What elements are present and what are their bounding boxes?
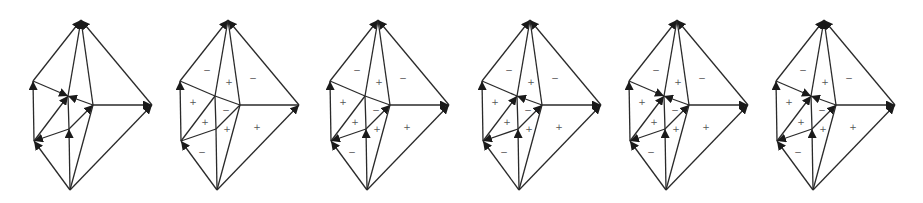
edge-C-F xyxy=(331,96,365,141)
minus-sign-label: − xyxy=(353,65,361,75)
edge-C-A xyxy=(68,20,81,96)
plus-sign-label: + xyxy=(403,122,411,132)
edge-F-B xyxy=(330,81,331,141)
edge-C-G xyxy=(215,96,216,129)
diagram-5: −+−+−+++− xyxy=(629,20,748,190)
edge-H-G xyxy=(69,129,70,190)
plus-sign-label: + xyxy=(223,124,231,134)
plus-sign-label: + xyxy=(555,122,563,132)
plus-sign-label: + xyxy=(638,97,646,107)
minus-sign-label: − xyxy=(551,73,559,83)
figure-stage: −+−+−+++−−+−+−+++−−+−+−+++−−+−+−+++−−+−+… xyxy=(0,0,923,203)
minus-sign-label: − xyxy=(203,65,211,75)
edge-B-A xyxy=(33,20,81,81)
edge-F-B xyxy=(776,81,777,141)
edge-C-G xyxy=(365,96,366,129)
edge-C-G xyxy=(811,96,812,129)
plus-sign-label: + xyxy=(189,97,197,107)
edge-H-E xyxy=(519,105,601,190)
minus-sign-label: − xyxy=(845,73,853,83)
minus-sign-label: − xyxy=(698,73,706,83)
minus-sign-label: − xyxy=(818,105,826,115)
graph-diagrams: −+−+−+++−−+−+−+++−−+−+−+++−−+−+−+++−−+−+… xyxy=(0,0,923,203)
edge-C-G xyxy=(68,96,69,129)
edge-F-C xyxy=(34,96,68,141)
plus-sign-label: + xyxy=(821,77,829,87)
plus-sign-label: + xyxy=(491,97,499,107)
edge-H-E xyxy=(813,105,895,190)
edge-H-E xyxy=(70,105,152,190)
minus-sign-label: − xyxy=(249,73,257,83)
edge-H-G xyxy=(665,129,666,190)
plus-sign-label: + xyxy=(373,124,381,134)
edge-C-G xyxy=(517,96,518,129)
edge-H-F xyxy=(34,141,70,190)
plus-sign-label: + xyxy=(797,117,805,127)
minus-sign-label: − xyxy=(652,65,660,75)
diagram-2: −+−+−+++− xyxy=(180,20,299,190)
diagram-1 xyxy=(33,20,152,190)
edge-F-B xyxy=(180,81,181,141)
edge-F-C xyxy=(630,96,664,141)
minus-sign-label: − xyxy=(524,105,532,115)
plus-sign-label: + xyxy=(785,97,793,107)
plus-sign-label: + xyxy=(672,124,680,134)
minus-sign-label: − xyxy=(198,147,206,157)
minus-sign-label: − xyxy=(372,105,380,115)
minus-sign-label: − xyxy=(399,73,407,83)
edge-F-C xyxy=(483,96,517,141)
edge-H-E xyxy=(217,105,299,190)
plus-sign-label: + xyxy=(702,122,710,132)
edge-C-F xyxy=(181,96,215,141)
edge-F-B xyxy=(629,81,630,141)
plus-sign-label: + xyxy=(225,77,233,87)
edge-B-C xyxy=(629,81,664,96)
plus-sign-label: + xyxy=(674,77,682,87)
edge-B-C xyxy=(330,81,365,96)
plus-sign-label: + xyxy=(351,117,359,127)
minus-sign-label: − xyxy=(222,105,230,115)
edge-H-G xyxy=(366,129,367,190)
edge-B-C xyxy=(776,81,811,96)
minus-sign-label: − xyxy=(348,147,356,157)
plus-sign-label: + xyxy=(503,117,511,127)
edge-F-B xyxy=(33,81,34,141)
edge-H-E xyxy=(666,105,748,190)
edge-H-G xyxy=(812,129,813,190)
edge-B-C xyxy=(180,81,215,96)
diagram-6: −+−+−+++− xyxy=(776,20,895,190)
edge-G-H xyxy=(216,129,217,190)
edge-F-C xyxy=(777,96,811,141)
edge-D-C xyxy=(68,96,93,105)
plus-sign-label: + xyxy=(339,97,347,107)
plus-sign-label: + xyxy=(525,124,533,134)
diagram-3: −+−+−+++− xyxy=(330,20,449,190)
plus-sign-label: + xyxy=(375,77,383,87)
plus-sign-label: + xyxy=(849,122,857,132)
plus-sign-label: + xyxy=(650,117,658,127)
edge-H-G xyxy=(518,129,519,190)
plus-sign-label: + xyxy=(253,122,261,132)
edge-C-G xyxy=(664,96,665,129)
minus-sign-label: − xyxy=(500,147,508,157)
edge-B-C xyxy=(33,81,68,96)
edge-H-E xyxy=(367,105,449,190)
minus-sign-label: − xyxy=(799,65,807,75)
edge-F-B xyxy=(482,81,483,141)
plus-sign-label: + xyxy=(819,124,827,134)
minus-sign-label: − xyxy=(647,147,655,157)
plus-sign-label: + xyxy=(201,117,209,127)
plus-sign-label: + xyxy=(527,77,535,87)
minus-sign-label: − xyxy=(671,105,679,115)
edge-B-C xyxy=(482,81,517,96)
minus-sign-label: − xyxy=(505,65,513,75)
minus-sign-label: − xyxy=(794,147,802,157)
diagram-4: −+−+−+++− xyxy=(482,20,601,190)
